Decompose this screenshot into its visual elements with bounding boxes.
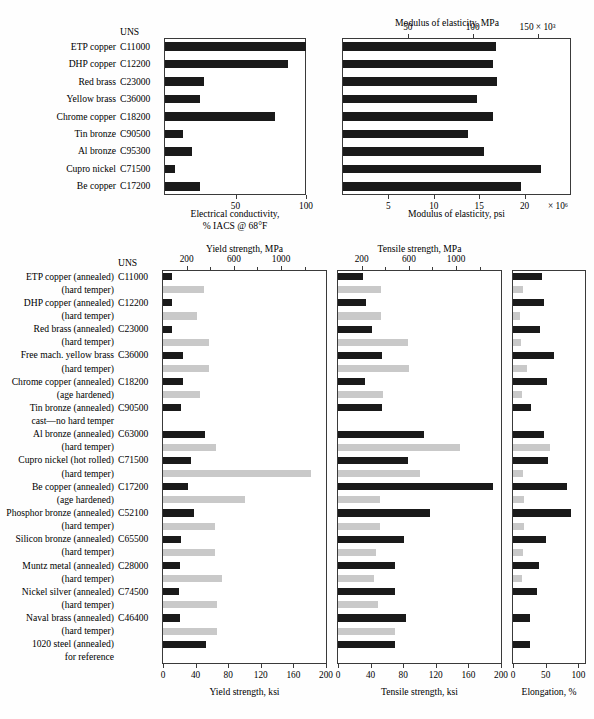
elongation-bar-tick-label: 50 [532,670,560,680]
tensile-bar [338,378,365,385]
yield-title-mpa: Yield strength, MPa [162,243,327,254]
bottom-row-label: for reference [0,652,114,662]
bottom-row-label: Tin bronze (annealed) [0,403,114,413]
elongation-bar-tick-mark [578,664,579,668]
yield-bar [163,312,197,319]
elongation-bar [513,588,537,595]
tensile-bar [338,549,376,556]
elongation-bar [513,562,539,569]
elongation-bar [513,509,571,516]
elongation-bar-tick-label: 100 [564,670,592,680]
yield-bar [163,562,180,569]
bottom-row-label: (hard temper) [0,574,114,584]
elongation-bar [513,404,531,411]
modulus-top-tick-mark [408,34,409,38]
bottom-row-uns: C12200 [118,298,148,308]
elongation-bar [513,312,520,319]
tensile-xlabel-ksi: Tensile strength, ksi [337,686,502,697]
elongation-bar [513,496,524,503]
bottom-row-uns: C74500 [118,587,148,597]
yield-bar [163,496,245,503]
tensile-bar [338,391,383,398]
yield-bar [163,299,172,306]
yield-xlabel-ksi: Yield strength, ksi [162,686,327,697]
tensile-bar [338,404,382,411]
bottom-row-label: DHP copper (annealed) [0,298,114,308]
yield-bar [163,431,205,438]
yield-bar [163,575,222,582]
yield-bar-top-tick-label: 200 [171,254,203,264]
modulus-bottom-tick-mark [479,195,480,199]
tensile-bar-tick-label: 40 [357,670,385,680]
tensile-bar [338,431,424,438]
tensile-bar [338,470,420,477]
tensile-bar-tick-label: 120 [422,670,450,680]
yield-bar [163,404,181,411]
yield-bar [163,444,216,451]
yield-bar [163,286,204,293]
yield-bar-tick-label: 0 [149,670,177,680]
bottom-row-uns: C63000 [118,429,148,439]
yield-bar-tick-mark [261,664,262,668]
modulus-bar [343,42,496,51]
bottom-row-label: (hard temper) [0,521,114,531]
uns-column-header-bottom: UNS [118,257,137,268]
yield-bar [163,641,206,648]
bottom-row-label: (hard temper) [0,600,114,610]
yield-bar [163,470,311,477]
bottom-row-label: Nickel silver (annealed) [0,587,114,597]
bottom-section: UNS ETP copper (annealed)C11000(hard tem… [0,240,594,719]
bottom-row-label: (hard temper) [0,626,114,636]
elongation-bar-tick-label: 0 [499,670,527,680]
elongation-bar [513,549,523,556]
bottom-row-uns: C36000 [118,350,148,360]
modulus-top-tick-mark [473,34,474,38]
bottom-row-label: (hard temper) [0,285,114,295]
yield-bar-tick-mark [326,664,327,668]
elongation-bar [513,575,522,582]
tensile-bar [338,339,408,346]
bottom-row-label: Be copper (annealed) [0,482,114,492]
elongation-bar [513,299,544,306]
yield-bar [163,339,209,346]
modulus-bar [343,147,484,156]
tensile-bar [338,614,406,621]
yield-bar [163,378,183,385]
elongation-bar [513,326,540,333]
yield-bar-tick-label: 160 [279,670,307,680]
bottom-row-label: Phosphor bronze (annealed) [0,508,114,518]
elongation-bar [513,391,522,398]
tensile-title-mpa: Tensile strength, MPa [337,243,502,254]
yield-bar-top-tick-label: 600 [218,254,250,264]
bottom-row-uns: C65500 [118,534,148,544]
tensile-bar-tick-mark [436,664,437,668]
yield-bar [163,483,188,490]
tensile-bar [338,483,493,490]
yield-bar [163,391,200,398]
elongation-bar [513,339,521,346]
bottom-row-uns: C71500 [118,455,148,465]
yield-bar [163,628,217,635]
modulus-bar [343,95,477,104]
tensile-bar [338,496,380,503]
yield-bar [163,549,215,556]
modulus-top-tick-label: 150 × 10³ [510,22,566,32]
yield-bar-tick-mark [163,664,164,668]
tensile-bar [338,628,395,635]
modulus-bar [343,112,493,121]
bottom-row-label: (hard temper) [0,311,114,321]
tensile-bar-tick-mark [371,664,372,668]
bottom-row-uns: C23000 [118,324,148,334]
tensile-bar-top-tick-label: 200 [346,254,378,264]
yield-bar [163,365,209,372]
tensile-bar [338,444,460,451]
tensile-bar [338,286,381,293]
bottom-row-label: Al bronze (annealed) [0,429,114,439]
elongation-bar [513,286,523,293]
bottom-row-uns: C18200 [118,377,148,387]
bottom-row-uns: C11000 [118,272,148,282]
bottom-row-uns: C17200 [118,482,148,492]
bottom-row-label: (hard temper) [0,469,114,479]
tensile-bar [338,312,381,319]
yield-bar-tick-mark [228,664,229,668]
